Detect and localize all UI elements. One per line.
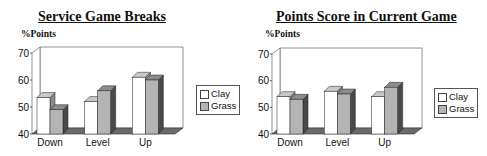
legend-label: Grass [449,103,474,115]
svg-text:Up: Up [378,137,391,148]
svg-text:60: 60 [258,75,270,86]
legend-item-clay: Clay [438,91,474,103]
plot-area: 40506070DownLevelUp [244,0,487,156]
svg-text:60: 60 [18,75,30,86]
svg-text:70: 70 [258,49,270,60]
svg-text:Level: Level [86,137,110,148]
svg-text:Up: Up [139,137,152,148]
legend-item-grass: Grass [200,100,236,112]
plot-area: 40506070DownLevelUp [0,0,243,156]
svg-text:50: 50 [18,102,30,113]
svg-text:70: 70 [18,48,30,59]
svg-text:Level: Level [325,137,349,148]
legend: Clay Grass [434,88,478,118]
chart-points-score-current-game: Points Score in Current Game %Points 405… [244,0,487,156]
clay-swatch-icon [438,93,447,102]
svg-text:Down: Down [277,137,303,148]
legend-label: Clay [449,91,468,103]
svg-text:50: 50 [258,102,270,113]
legend: Clay Grass [196,85,240,115]
grass-swatch-icon [200,102,209,111]
legend-label: Clay [211,88,230,100]
svg-text:40: 40 [18,129,30,140]
svg-text:40: 40 [258,129,270,140]
grass-swatch-icon [438,105,447,114]
svg-text:Down: Down [37,137,63,148]
legend-label: Grass [211,100,236,112]
chart-service-game-breaks: Service Game Breaks %Points 40506070Down… [0,0,243,156]
legend-item-clay: Clay [200,88,236,100]
clay-swatch-icon [200,90,209,99]
legend-item-grass: Grass [438,103,474,115]
